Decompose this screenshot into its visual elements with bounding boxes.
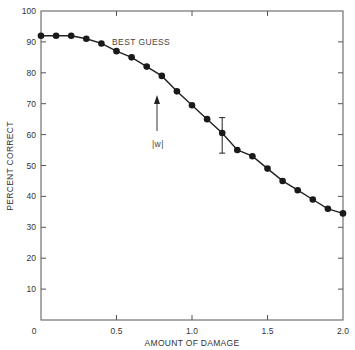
data-point — [143, 63, 150, 70]
data-point — [264, 165, 271, 172]
w-label: |w| — [152, 139, 164, 149]
data-point — [294, 187, 301, 194]
plot-frame — [41, 11, 343, 320]
x-axis-ticks: 00.51.01.52.0 — [32, 11, 350, 336]
series-polyline — [41, 36, 343, 214]
data-point — [113, 48, 120, 55]
y-axis-title: PERCENT CORRECT — [5, 121, 15, 210]
data-point — [128, 54, 135, 61]
chart-canvas: 102030405060708090100 00.51.01.52.0 BEST… — [0, 0, 355, 350]
data-point — [310, 196, 317, 203]
data-point — [189, 102, 196, 109]
data-point — [174, 88, 181, 95]
data-point — [98, 40, 105, 47]
data-point — [38, 32, 45, 39]
best-guess-label: BEST GUESS — [112, 37, 170, 47]
y-tick-label: 40 — [27, 191, 37, 201]
data-point — [249, 153, 256, 160]
y-tick-label: 80 — [27, 68, 37, 78]
data-line — [41, 36, 343, 214]
x-tick-label: 0 — [32, 326, 37, 336]
data-markers — [38, 32, 347, 216]
x-tick-label: 1.0 — [186, 326, 198, 336]
arrow-up-icon — [154, 95, 160, 104]
annotations: BEST GUESS |w| — [112, 37, 170, 149]
data-point — [219, 130, 226, 137]
data-point — [68, 32, 75, 39]
y-tick-label: 70 — [27, 99, 37, 109]
x-tick-label: 2.0 — [337, 326, 349, 336]
y-tick-label: 30 — [27, 222, 37, 232]
data-point — [53, 32, 60, 39]
data-point — [325, 205, 332, 212]
y-tick-label: 20 — [27, 253, 37, 263]
y-tick-label: 10 — [27, 284, 37, 294]
data-point — [159, 73, 166, 80]
y-tick-label: 60 — [27, 130, 37, 140]
x-tick-label: 0.5 — [111, 326, 123, 336]
data-point — [279, 178, 286, 185]
x-tick-label: 1.5 — [262, 326, 274, 336]
y-tick-label: 50 — [27, 161, 37, 171]
data-point — [204, 116, 211, 123]
data-point — [340, 210, 347, 217]
data-point — [234, 147, 241, 154]
y-axis-ticks: 102030405060708090100 — [22, 6, 343, 294]
y-tick-label: 90 — [27, 37, 37, 47]
y-tick-label: 100 — [22, 6, 36, 16]
data-point — [83, 36, 90, 43]
x-axis-title: AMOUNT OF DAMAGE — [145, 338, 240, 348]
